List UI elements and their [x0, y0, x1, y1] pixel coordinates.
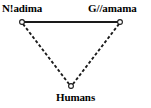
node-label-gamama: G//amama	[88, 2, 137, 14]
edge-nadima-humans	[23, 24, 69, 84]
edge-gamama-humans	[73, 24, 119, 84]
node-label-humans: Humans	[0, 91, 151, 103]
node-marker-gamama[interactable]	[118, 20, 123, 25]
node-marker-nadima[interactable]	[20, 20, 25, 25]
node-marker-humans[interactable]	[69, 84, 74, 89]
diagram-canvas: N!adima G//amama Humans	[0, 0, 151, 108]
node-label-nadima: N!adima	[2, 2, 42, 14]
